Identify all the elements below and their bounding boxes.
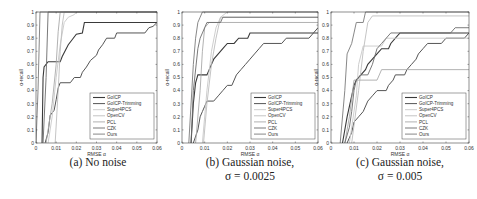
- legend-label: GoICP: [419, 95, 433, 100]
- y-tick-label: 0.2: [173, 114, 180, 120]
- y-tick-label: 0.9: [322, 22, 329, 28]
- y-tick-label: 0.9: [173, 22, 180, 28]
- legend-label: GoICP-Trimming: [419, 101, 454, 106]
- caption-line-2: σ = 0.0025: [182, 169, 318, 183]
- legend-label: Super4PCS: [419, 107, 443, 112]
- legend-label: CZK: [107, 126, 117, 131]
- y-tick-label: 0.7: [173, 48, 180, 54]
- y-tick-label: 0: [31, 140, 34, 146]
- x-tick-label: 0.02: [372, 145, 382, 151]
- caption-gaussian-0.0025: (b) Gaussian noise, σ = 0.0025: [182, 155, 318, 183]
- y-tick-label: 0.4: [322, 87, 329, 93]
- y-tick-label: 0.1: [27, 127, 34, 133]
- y-tick-label: 1: [31, 9, 34, 15]
- x-tick-label: 0.04: [268, 145, 278, 151]
- y-tick-label: 0.1: [173, 127, 180, 133]
- y-tick-label: 0.3: [173, 101, 180, 107]
- y-tick-label: 0.5: [322, 74, 329, 80]
- x-tick-label: 0.01: [51, 145, 61, 151]
- y-tick-label: 0.3: [322, 101, 329, 107]
- y-tick-label: 0.8: [322, 35, 329, 41]
- legend-label: CZK: [419, 126, 429, 131]
- y-tick-label: 0.8: [173, 35, 180, 41]
- y-tick-label: 0.3: [27, 101, 34, 107]
- legend-label: Super4PCS: [268, 107, 292, 112]
- y-tick-label: 0.6: [173, 61, 180, 67]
- x-tick-label: 0.05: [290, 145, 300, 151]
- legend-label: PCL: [268, 120, 277, 125]
- y-axis-label: α-recall: [164, 69, 170, 86]
- y-tick-label: 0.9: [27, 22, 34, 28]
- caption-line-2: σ = 0.005: [331, 169, 469, 183]
- x-tick-label: 0.01: [200, 145, 210, 151]
- x-tick-label: 0.04: [418, 145, 428, 151]
- y-axis-label: α-recall: [313, 69, 319, 86]
- legend-label: PCL: [419, 120, 428, 125]
- chart-panel-gaussian-0.005: 00.010.020.030.040.050.0600.10.20.30.40.…: [310, 0, 477, 199]
- y-tick-label: 0.4: [173, 87, 180, 93]
- y-tick-label: 0: [326, 140, 329, 146]
- caption-line-1: (c) Gaussian noise,: [331, 155, 469, 169]
- y-tick-label: 1: [177, 9, 180, 15]
- y-tick-label: 0: [177, 140, 180, 146]
- chart-panel-gaussian-0.0025: 00.010.020.030.040.050.0600.10.20.30.40.…: [160, 0, 322, 199]
- y-tick-label: 0.8: [27, 35, 34, 41]
- y-tick-label: 0.6: [322, 61, 329, 67]
- x-tick-label: 0: [330, 145, 333, 151]
- caption-line-1: (b) Gaussian noise,: [182, 155, 318, 169]
- x-tick-label: 0: [181, 145, 184, 151]
- y-tick-label: 0.4: [27, 87, 34, 93]
- x-tick-label: 0.02: [222, 145, 232, 151]
- legend-label: Ours: [107, 132, 118, 137]
- x-tick-label: 0.06: [464, 145, 474, 151]
- x-tick-label: 0.05: [441, 145, 451, 151]
- y-tick-label: 0.2: [322, 114, 329, 120]
- legend-label: GoICP-Trimming: [107, 101, 142, 106]
- x-tick-label: 0.05: [132, 145, 142, 151]
- y-tick-label: 0.5: [27, 74, 34, 80]
- y-tick-label: 0.7: [27, 48, 34, 54]
- legend-label: OpenCV: [107, 113, 126, 118]
- x-tick-label: 0.02: [71, 145, 81, 151]
- y-tick-label: 0.1: [322, 127, 329, 133]
- caption-gaussian-0.005: (c) Gaussian noise, σ = 0.005: [331, 155, 469, 183]
- caption-line-1: (a) No noise: [36, 155, 160, 169]
- legend-label: Super4PCS: [107, 107, 131, 112]
- x-tick-label: 0.04: [112, 145, 122, 151]
- x-tick-label: 0: [35, 145, 38, 151]
- legend: GoICPGoICP-TrimmingSuper4PCSOpenCVPCLCZK…: [402, 93, 466, 139]
- chart-panel-no-noise: 00.010.020.030.040.050.0600.10.20.30.40.…: [0, 0, 165, 199]
- caption-no-noise: (a) No noise: [36, 155, 160, 169]
- y-tick-label: 0.5: [173, 74, 180, 80]
- legend-label: GoICP-Trimming: [268, 101, 303, 106]
- y-axis-label: α-recall: [18, 69, 24, 86]
- legend: GoICPGoICP-TrimmingSuper4PCSOpenCVPCLCZK…: [90, 93, 154, 139]
- y-tick-label: 1: [326, 9, 329, 15]
- legend-label: CZK: [268, 126, 278, 131]
- line-chart-no-noise: 00.010.020.030.040.050.0600.10.20.30.40.…: [0, 0, 165, 199]
- legend-label: GoICP: [268, 95, 282, 100]
- legend-label: OpenCV: [268, 113, 287, 118]
- x-tick-label: 0.01: [349, 145, 359, 151]
- y-tick-label: 0.2: [27, 114, 34, 120]
- legend-label: GoICP: [107, 95, 121, 100]
- legend: GoICPGoICP-TrimmingSuper4PCSOpenCVPCLCZK…: [251, 93, 315, 139]
- legend-label: Ours: [268, 132, 279, 137]
- legend-label: PCL: [107, 120, 116, 125]
- legend-label: Ours: [419, 132, 430, 137]
- legend-label: OpenCV: [419, 113, 438, 118]
- y-tick-label: 0.7: [322, 48, 329, 54]
- y-tick-label: 0.6: [27, 61, 34, 67]
